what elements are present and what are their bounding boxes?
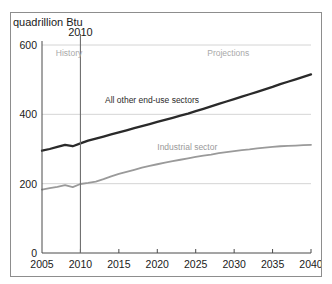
y-tick-label-400: 400 [19, 108, 37, 120]
labels-layer: 2005201020152020202520302035204002004006… [13, 16, 321, 270]
annotation-projections: Projections [207, 48, 249, 58]
x-tick-label-2040: 2040 [299, 258, 321, 270]
x-tick-label-2005: 2005 [30, 258, 54, 270]
y-tick-label-600: 600 [19, 39, 37, 51]
annotation-history: History [56, 48, 83, 58]
annotation-divider-year: 2010 [68, 26, 92, 38]
x-tick-label-2020: 2020 [146, 258, 170, 270]
annotation-all-other-label: All other end-use sectors [105, 95, 199, 105]
x-tick-label-2030: 2030 [222, 258, 246, 270]
gridlines [42, 45, 311, 184]
energy-consumption-line-chart: 2005201020152020202520302035204002004006… [11, 13, 321, 276]
series-line-all-other-end-use-sectors [42, 74, 311, 150]
x-tick-label-2010: 2010 [69, 258, 93, 270]
y-tick-label-0: 0 [31, 247, 37, 259]
series-layer [42, 74, 311, 189]
chart-figure: 2005201020152020202520302035204002004006… [10, 12, 322, 277]
x-tick-label-2015: 2015 [107, 258, 131, 270]
annotation-industrial-label: Industrial sector [157, 142, 217, 152]
y-tick-label-200: 200 [19, 178, 37, 190]
x-tick-label-2035: 2035 [261, 258, 285, 270]
x-tick-label-2025: 2025 [184, 258, 208, 270]
